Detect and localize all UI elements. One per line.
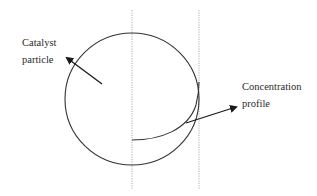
catalyst-label-line1: Catalyst (22, 34, 56, 51)
concentration-arrow (186, 107, 236, 123)
catalyst-particle-label: Catalyst particle (22, 34, 56, 68)
concentration-profile-curve (132, 82, 199, 140)
concentration-label-line1: Concentration (242, 78, 301, 95)
concentration-profile-label: Concentration profile (242, 78, 301, 112)
catalyst-label-line2: particle (22, 51, 56, 68)
catalyst-arrow (67, 58, 102, 84)
concentration-label-line2: profile (242, 95, 301, 112)
